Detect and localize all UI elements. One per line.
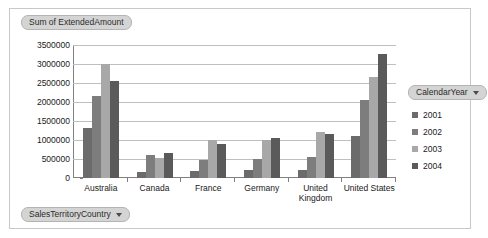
y-tick-label: 2000000	[37, 97, 70, 107]
y-tick-label: 1500000	[37, 116, 70, 126]
y-axis-tick-labels: 3500000300000025000002000000150000010000…	[20, 45, 70, 178]
x-tick-label: United Kingdom	[289, 183, 343, 203]
chevron-down-icon	[116, 213, 122, 217]
bar[interactable]	[378, 54, 387, 178]
x-tick-mark	[234, 178, 235, 182]
bar-group	[74, 45, 128, 178]
x-tick-mark	[341, 178, 342, 182]
y-tick-label: 0	[65, 173, 70, 183]
bar[interactable]	[199, 160, 208, 178]
x-tick-label: France	[181, 183, 235, 203]
x-tick-mark	[127, 178, 128, 182]
bar[interactable]	[360, 100, 369, 178]
category-field-button[interactable]: SalesTerritoryCountry	[21, 207, 130, 222]
bar-group	[128, 45, 182, 178]
x-tick-label: Canada	[128, 183, 182, 203]
x-tick-mark	[180, 178, 181, 182]
bar[interactable]	[325, 134, 334, 178]
legend-item-label: 2003	[423, 144, 442, 154]
category-field-label: SalesTerritoryCountry	[29, 208, 111, 221]
bar[interactable]	[101, 64, 110, 178]
value-field-button[interactable]: Sum of ExtendedAmount	[21, 15, 132, 30]
bar[interactable]	[262, 140, 271, 178]
pivot-chart-frame: Sum of ExtendedAmount SalesTerritoryCoun…	[9, 8, 471, 229]
y-tick-mark	[80, 178, 83, 179]
bar[interactable]	[298, 170, 307, 178]
y-tick-label: 1000000	[37, 135, 70, 145]
legend-item-label: 2004	[423, 161, 442, 171]
legend-field-label: CalendarYear	[416, 86, 468, 99]
x-axis-tick-labels: AustraliaCanadaFranceGermanyUnited Kingd…	[74, 183, 396, 203]
bar[interactable]	[316, 132, 325, 178]
legend-item-label: 2002	[423, 127, 442, 137]
y-tick-label: 500000	[42, 154, 70, 164]
bar[interactable]	[92, 96, 101, 178]
bar[interactable]	[110, 81, 119, 178]
y-tick-label: 3500000	[37, 40, 70, 50]
bar-group	[289, 45, 343, 178]
y-tick-label: 3000000	[37, 59, 70, 69]
bar[interactable]	[208, 140, 217, 178]
bar[interactable]	[83, 128, 92, 178]
legend-swatch-icon	[412, 129, 418, 135]
bar[interactable]	[244, 170, 253, 178]
x-tick-label: Australia	[74, 183, 128, 203]
bar[interactable]	[369, 77, 378, 178]
bar-group	[235, 45, 289, 178]
bar[interactable]	[146, 155, 155, 178]
legend: 2001200220032004	[412, 106, 472, 174]
bar[interactable]	[190, 171, 199, 178]
legend-swatch-icon	[412, 146, 418, 152]
legend-field-button[interactable]: CalendarYear	[408, 85, 487, 100]
legend-item[interactable]: 2004	[412, 157, 472, 174]
legend-item[interactable]: 2003	[412, 140, 472, 157]
legend-swatch-icon	[412, 112, 418, 118]
bar[interactable]	[164, 153, 173, 178]
y-tick-label: 2500000	[37, 78, 70, 88]
x-tick-mark	[288, 178, 289, 182]
chevron-down-icon	[473, 91, 479, 95]
legend-item[interactable]: 2001	[412, 106, 472, 123]
bar[interactable]	[253, 159, 262, 178]
bar[interactable]	[307, 157, 316, 178]
value-field-label: Sum of ExtendedAmount	[29, 16, 124, 29]
bar[interactable]	[351, 136, 360, 178]
bar-groups	[74, 45, 396, 178]
legend-item-label: 2001	[423, 110, 442, 120]
x-tick-label: Germany	[235, 183, 289, 203]
x-tick-mark	[395, 178, 396, 182]
x-tick-label: United States	[342, 183, 396, 203]
legend-item[interactable]: 2002	[412, 123, 472, 140]
bar[interactable]	[217, 144, 226, 178]
bar-group	[342, 45, 396, 178]
bar[interactable]	[137, 172, 146, 178]
bar[interactable]	[271, 138, 280, 178]
bar-group	[181, 45, 235, 178]
bar[interactable]	[155, 158, 164, 178]
legend-swatch-icon	[412, 163, 418, 169]
